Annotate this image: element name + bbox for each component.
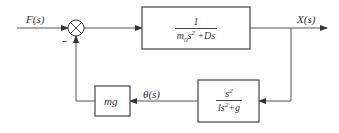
forward-transfer-function: 1 m0s2 +Ds [158, 16, 234, 45]
den-g: +g [228, 103, 240, 114]
feedback-1-transfer-function: s2 ls2+g [206, 88, 252, 114]
feedback-sign: − [62, 37, 68, 47]
den-m: m [177, 30, 184, 41]
feedback-return-line [76, 36, 95, 101]
forward-denominator: m0s2 +Ds [175, 28, 218, 45]
num-sup2: 2 [229, 87, 233, 95]
forward-numerator: 1 [192, 16, 201, 28]
den-ls: ls [218, 103, 225, 114]
den-ds: +Ds [195, 30, 215, 41]
branch-line [259, 28, 291, 101]
mg-label: mg [104, 96, 117, 107]
feedback-1-numerator: s2 [223, 88, 234, 100]
summing-junction-icon [68, 20, 84, 36]
input-label: F(s) [26, 14, 44, 25]
theta-label: θ(s) [143, 89, 160, 100]
output-label: X(s) [297, 14, 315, 25]
feedback-1-denominator: ls2+g [216, 100, 242, 113]
